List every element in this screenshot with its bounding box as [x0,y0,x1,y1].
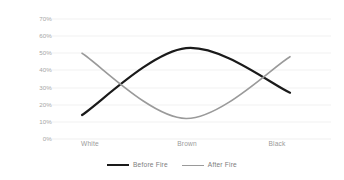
y-axis-tick-label: 50% [6,50,52,56]
y-axis-tick-label: 10% [6,119,52,125]
x-axis-tick-label-black: Black [268,141,285,148]
y-axis-tick-label: 70% [6,16,52,22]
legend-swatch-icon [107,164,129,166]
y-axis-tick-label: 60% [6,33,52,39]
y-axis-tick-label: 0% [6,136,52,142]
y-axis-tick-label: 20% [6,102,52,108]
chart-legend: Before Fire After Fire [0,162,344,169]
x-axis-tick-label-brown: Brown [177,141,197,148]
x-axis-tick-label-white: White [81,141,99,148]
legend-label: Before Fire [133,162,168,169]
legend-label: After Fire [208,162,237,169]
legend-item-before-fire[interactable]: Before Fire [107,162,168,169]
legend-swatch-icon [182,165,204,166]
gridlines [52,19,331,139]
y-axis-tick-label: 40% [6,67,52,73]
line-chart: 70% 60% 50% 40% 30% 20% 10% 0% White Bro… [0,0,344,180]
series-line-after-fire [82,53,290,118]
y-axis-tick-label: 30% [6,85,52,91]
legend-item-after-fire[interactable]: After Fire [182,162,237,169]
